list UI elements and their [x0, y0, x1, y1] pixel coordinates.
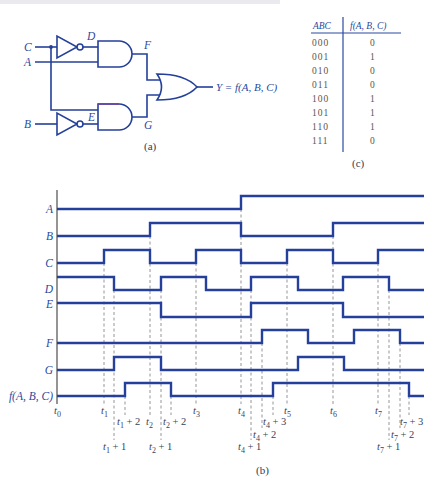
signal-label-D: D [44, 283, 54, 295]
inverter-2-bubble [77, 121, 83, 127]
signal-label-E: E [45, 298, 53, 310]
truth-table-row: 010 0 [312, 66, 376, 76]
row-output: 1 [370, 122, 376, 132]
time-label-t6: t6 [330, 405, 337, 419]
caption-b: (b) [256, 464, 269, 477]
truth-table-row: 000 0 [312, 38, 376, 48]
node-label-g: G [144, 119, 153, 131]
input-label-a: A [23, 56, 32, 68]
time-label-t2+2: t2 + 2 [163, 416, 186, 430]
time-label-t7+1: t7 + 1 [377, 441, 400, 455]
waveform-A [57, 196, 424, 209]
waveform-F [57, 330, 424, 343]
row-output: 0 [370, 66, 376, 76]
truth-table-row: 101 1 [312, 108, 376, 118]
waveform-D [57, 277, 424, 290]
time-label-t2: t2 [146, 416, 153, 430]
signal-label-A: A [45, 203, 54, 215]
waveform-f [57, 383, 424, 396]
inverter-2-icon [57, 113, 77, 135]
row-output: 0 [370, 80, 376, 90]
truth-table-header-inputs: ABC [312, 21, 332, 31]
or-gate-icon [157, 74, 197, 100]
time-label-t7: t7 [375, 405, 382, 419]
figure-canvas: C A B D F E G Y = f(A, B, C) (a [0, 0, 434, 479]
row-output: 1 [370, 94, 376, 104]
waveforms [57, 196, 424, 396]
node-label-f: F [143, 39, 152, 51]
time-label-t1+1: t1 + 1 [103, 441, 126, 455]
row-inputs: 000 [312, 38, 329, 48]
input-label-b: B [24, 118, 31, 130]
row-inputs: 011 [312, 80, 329, 90]
row-output: 1 [370, 52, 376, 62]
signal-label-G: G [45, 364, 54, 376]
and-gate-2-icon [98, 104, 132, 130]
truth-table-header-output: f(A, B, C) [350, 21, 386, 32]
signal-labels: ABCDEFGf(A, B, C) [9, 203, 54, 403]
inverter-1-icon [57, 36, 77, 58]
row-output: 0 [370, 38, 376, 48]
row-output: 0 [370, 136, 376, 146]
time-label-t4: t4 [238, 405, 245, 419]
time-label-t7+3: t7 + 3 [400, 416, 423, 430]
time-label-t4+2: t4 + 2 [253, 429, 276, 443]
inverter-1-bubble [77, 44, 83, 50]
waveform-E [57, 303, 424, 317]
output-label: Y = f(A, B, C) [216, 81, 278, 94]
truth-table-row: 100 1 [312, 94, 376, 104]
time-label-t4+1: t4 + 1 [238, 441, 261, 455]
truth-table-row: 001 1 [312, 52, 376, 62]
truth-table: ABC f(A, B, C) 000 0 001 1 010 0 011 0 1… [311, 17, 401, 170]
truth-table-row: 111 0 [312, 136, 376, 146]
row-inputs: 101 [312, 108, 329, 118]
logic-circuit: C A B D F E G Y = f(A, B, C) (a [23, 30, 278, 153]
row-inputs: 001 [312, 52, 329, 62]
row-inputs: 110 [312, 122, 329, 132]
timing-diagram: ABCDEFGf(A, B, C) t0t1t1 + 1t1 + 2t2t2 +… [9, 190, 424, 477]
input-label-c: C [24, 41, 32, 53]
cropped-text-strip [0, 0, 280, 4]
signal-label-f: f(A, B, C) [9, 390, 53, 403]
waveform-C [57, 250, 424, 263]
time-label-t1: t1 [101, 405, 108, 419]
time-label-t1+2: t1 + 2 [117, 416, 140, 430]
caption-a: (a) [144, 140, 157, 153]
row-inputs: 100 [312, 94, 329, 104]
time-labels: t0t1t1 + 1t1 + 2t2t2 + 1t2 + 2t3t4t4 + 1… [54, 405, 423, 455]
row-inputs: 010 [312, 66, 329, 76]
row-inputs: 111 [312, 136, 329, 146]
truth-table-row: 011 0 [312, 80, 376, 90]
row-output: 1 [370, 108, 376, 118]
waveform-G [57, 357, 424, 370]
waveform-B [57, 223, 424, 236]
signal-label-F: F [45, 337, 54, 349]
time-label-t2+1: t2 + 1 [149, 441, 172, 455]
signal-label-B: B [46, 230, 53, 242]
time-label-t4+3: t4 + 3 [263, 416, 286, 430]
node-label-d: D [86, 30, 96, 42]
time-label-t0: t0 [54, 405, 61, 419]
time-label-t3: t3 [193, 405, 200, 419]
and-gate-1-icon [98, 41, 132, 67]
node-label-e: E [87, 111, 95, 123]
time-label-t7+2: t7 + 2 [391, 429, 414, 443]
truth-table-row: 110 1 [312, 122, 376, 132]
signal-label-C: C [45, 257, 53, 269]
caption-c: (c) [352, 157, 365, 170]
